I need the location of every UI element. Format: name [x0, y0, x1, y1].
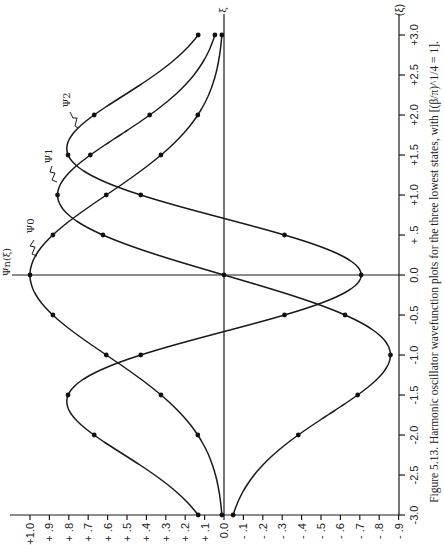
psi-tick-label: + .3 — [160, 523, 172, 542]
data-point — [282, 233, 287, 238]
psi-tick-label: - .7 — [354, 523, 366, 539]
xi-tick-group: -3.0-2.5-2.0-1.5-1.0-0.50.0+ .5+1.0+1.5+… — [399, 24, 420, 524]
psi-tick-label: + .1 — [199, 523, 211, 542]
psi0-leader — [30, 240, 37, 256]
xi-tick-label: -2.0 — [408, 426, 420, 445]
data-point — [104, 193, 109, 198]
data-point — [355, 393, 360, 398]
xi-tick-label: -0.5 — [408, 306, 420, 325]
psi2-leader — [70, 112, 78, 128]
xi-tick-label: -1.0 — [408, 346, 420, 365]
psi-tick-label: - .1 — [237, 523, 249, 539]
psi-tick-label: - .4 — [296, 523, 308, 539]
data-point — [88, 153, 93, 158]
psi-tick-label: + .7 — [82, 523, 94, 542]
data-point — [195, 113, 200, 118]
psi-tick-label: - .3 — [276, 523, 288, 539]
data-point — [104, 353, 109, 358]
data-point — [296, 433, 301, 438]
psi-tick-label: + .4 — [140, 523, 152, 542]
data-point — [92, 433, 97, 438]
data-point — [66, 393, 71, 398]
data-point — [159, 153, 164, 158]
data-point — [101, 233, 106, 238]
psi-tick-label: - .2 — [257, 523, 269, 539]
data-point — [231, 513, 236, 518]
data-point — [343, 313, 348, 318]
psi-tick-label: + .8 — [63, 523, 75, 542]
xi-tick-label: +1.0 — [408, 184, 420, 206]
data-point — [138, 193, 143, 198]
data-point — [219, 33, 224, 38]
xi-tick-label: -1.5 — [408, 386, 420, 405]
xi-axis-label: (ξ) — [393, 4, 405, 16]
data-point — [92, 113, 97, 118]
data-point — [359, 273, 364, 278]
data-point — [219, 513, 224, 518]
psi-tick-label: + .6 — [102, 523, 114, 542]
psi-tick-label: +1.0 — [24, 523, 36, 545]
psi-tick-group: +1.0+ .9+ .8+ .7+ .6+ .5+ .4+ .3+ .2+ .1… — [24, 515, 405, 545]
data-point — [66, 153, 71, 158]
data-point — [196, 513, 201, 518]
data-point — [388, 353, 393, 358]
data-point — [212, 33, 217, 38]
psi-tick-label: - .5 — [315, 523, 327, 539]
psi-tick-label: - .8 — [373, 523, 385, 539]
psi-tick-label: + .5 — [121, 523, 133, 542]
data-point — [159, 393, 164, 398]
xi-tick-label: +2.0 — [408, 104, 420, 126]
data-point — [28, 273, 33, 278]
xi-tick-label: +3.0 — [408, 24, 420, 46]
psi-n-label: Ψn(ξ) — [1, 248, 12, 277]
data-point — [50, 313, 55, 318]
xi-tick-label: -3.0 — [408, 506, 420, 525]
psi-tick-label: + .9 — [43, 523, 55, 542]
wavefunction-figure: +1.0+ .9+ .8+ .7+ .6+ .5+ .4+ .3+ .2+ .1… — [0, 0, 445, 545]
data-point — [196, 33, 201, 38]
psi1-leader — [50, 166, 57, 182]
psi-tick-label: + .2 — [179, 523, 191, 542]
xi-tick-label: + .5 — [408, 226, 420, 245]
xi-tick-label: +1.5 — [408, 144, 420, 166]
psi-tick-label: - .9 — [393, 523, 405, 539]
psi-tick-label: 0.0 — [218, 523, 230, 538]
data-point — [222, 273, 227, 278]
psi2-label: Ψ2 — [61, 92, 72, 107]
psi1-label: Ψ1 — [43, 148, 54, 163]
figure-caption: Figure 5.13. Harmonic oscillator wavefun… — [428, 41, 441, 503]
data-point — [50, 233, 55, 238]
psi-tick-label: - .6 — [334, 523, 346, 539]
psi0-label: Ψ0 — [25, 218, 36, 233]
data-point — [195, 433, 200, 438]
xi-tick-label: -2.5 — [408, 466, 420, 485]
data-point — [138, 353, 143, 358]
data-point — [55, 193, 60, 198]
data-point — [147, 113, 152, 118]
data-point — [282, 313, 287, 318]
xi-tick-label: 0.0 — [408, 267, 420, 282]
xi-top-label: ξ — [217, 7, 228, 13]
xi-tick-label: +2.5 — [408, 64, 420, 86]
